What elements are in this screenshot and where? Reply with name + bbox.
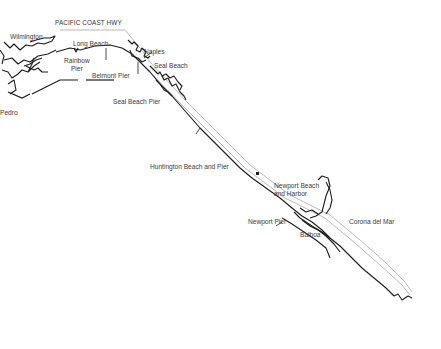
- label-wilmington: Wilmington: [10, 33, 43, 41]
- label-naples: Naples: [144, 48, 165, 56]
- label-san-pedro: Pedro: [0, 109, 18, 117]
- label-newport-beach: Newport Beach and Harbor: [274, 182, 319, 197]
- label-huntington: Huntington Beach and Pier: [150, 163, 229, 171]
- label-long-beach: Long Beach: [73, 40, 108, 48]
- label-corona-del-mar: Corona del Mar: [349, 218, 394, 226]
- huntington-pier-marker: [256, 172, 259, 175]
- label-balboa: Balboa: [300, 231, 321, 239]
- label-belmont-pier: Belmont Pier: [92, 72, 130, 80]
- coastal-map: [0, 0, 441, 349]
- label-newport-pier: Newport Pier: [248, 218, 286, 226]
- label-seal-beach: Seal Beach: [154, 62, 188, 70]
- label-rainbow-pier: Rainbow Pier: [64, 57, 90, 72]
- pier-markers: [106, 48, 282, 226]
- label-seal-beach-pier: Seal Beach Pier: [113, 98, 160, 106]
- highway-label: PACIFIC COAST HWY: [55, 19, 122, 26]
- highway-line: [60, 30, 412, 295]
- breakwater: [8, 80, 114, 98]
